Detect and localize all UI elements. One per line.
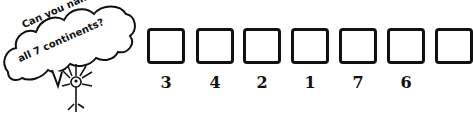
- box-number-2: 4: [196, 73, 234, 92]
- answer-box-1[interactable]: [147, 28, 185, 64]
- box-number-4: 1: [291, 73, 329, 92]
- thought-cloud-illustration: Can you name all 7 continents?: [0, 0, 140, 117]
- answer-box-4[interactable]: [291, 28, 329, 64]
- box-number-5: 7: [339, 73, 377, 92]
- box-number-3: 2: [243, 73, 281, 92]
- answer-box-6[interactable]: [387, 28, 425, 64]
- answer-box-7[interactable]: [435, 28, 473, 64]
- answer-box-3[interactable]: [243, 28, 281, 64]
- answer-box-5[interactable]: [339, 28, 377, 64]
- box-number-6: 6: [387, 73, 425, 92]
- answer-box-2[interactable]: [196, 28, 234, 64]
- box-number-1: 3: [147, 73, 185, 92]
